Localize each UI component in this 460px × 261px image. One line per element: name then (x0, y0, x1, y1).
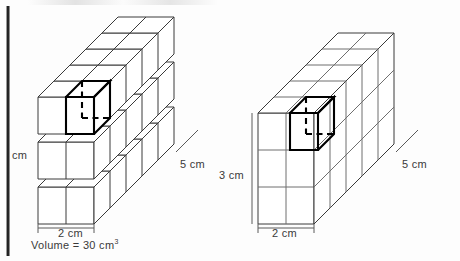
left-depth-label: 5 cm (180, 159, 205, 170)
right-height-label: 3 cm (219, 170, 244, 181)
right-prism-body (258, 33, 394, 224)
volume-exponent: 3 (114, 238, 118, 245)
right-depth-label: 5 cm (402, 159, 427, 170)
prisms-illustration: .s { fill:#ffffff; stroke:#3a3a3a; strok… (0, 0, 460, 261)
diagram-canvas: .s { fill:#ffffff; stroke:#3a3a3a; strok… (0, 0, 460, 261)
left-width-label: 2 cm (58, 228, 83, 239)
right-width-label: 2 cm (272, 228, 297, 239)
left-height-label: cm (12, 150, 27, 161)
volume-statement: Volume = 30 cm3 (31, 240, 119, 251)
volume-text: Volume = 30 cm (31, 239, 114, 251)
